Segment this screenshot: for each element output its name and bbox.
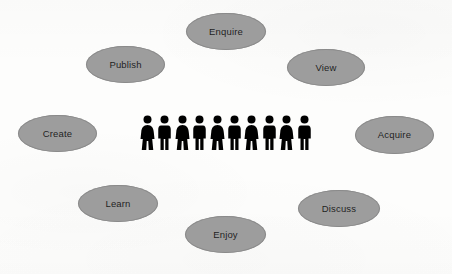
use-case-node-label: Create: [43, 128, 72, 138]
person-female-icon: [210, 115, 225, 155]
use-case-node-learn[interactable]: Learn: [78, 185, 158, 222]
person-female-icon: [279, 115, 294, 155]
use-case-node-label: Publish: [109, 59, 141, 69]
diagram-canvas: EnquirePublishViewCreateAcquireLearnDisc…: [0, 0, 452, 274]
person-female-icon: [175, 115, 190, 155]
use-case-node-acquire[interactable]: Acquire: [355, 116, 434, 154]
person-female-icon: [140, 115, 155, 155]
people-group: [140, 115, 312, 155]
person-male-icon: [262, 115, 277, 155]
use-case-node-label: Enjoy: [213, 229, 238, 239]
use-case-node-enquire[interactable]: Enquire: [186, 13, 266, 50]
use-case-node-label: View: [315, 62, 336, 72]
person-male-icon: [192, 115, 207, 155]
use-case-node-label: Enquire: [209, 26, 243, 36]
use-case-node-view[interactable]: View: [287, 49, 365, 86]
use-case-node-create[interactable]: Create: [18, 115, 97, 152]
person-female-icon: [244, 115, 259, 155]
use-case-node-publish[interactable]: Publish: [86, 46, 165, 83]
use-case-node-label: Learn: [105, 198, 130, 208]
use-case-node-label: Discuss: [322, 203, 356, 213]
person-male-icon: [227, 115, 242, 155]
use-case-node-discuss[interactable]: Discuss: [298, 190, 380, 227]
use-case-node-enjoy[interactable]: Enjoy: [185, 216, 266, 253]
use-case-node-label: Acquire: [378, 130, 411, 140]
person-male-icon: [297, 115, 312, 155]
person-male-icon: [157, 115, 172, 155]
